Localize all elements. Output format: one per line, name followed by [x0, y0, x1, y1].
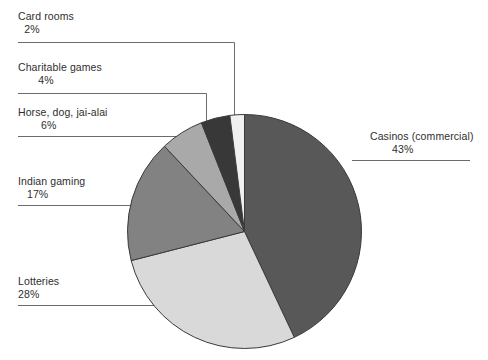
slice-label-charitable-games-pct: 4%	[18, 74, 102, 87]
pie-slices-group	[128, 114, 362, 348]
slice-label-card-rooms-name: Card rooms	[18, 10, 74, 23]
slice-label-lotteries-pct: 28%	[18, 288, 67, 301]
slice-label-horse-dog-jai-alai: Horse, dog, jai-alai 6%	[18, 106, 108, 131]
slice-label-indian-gaming: Indian gaming 17%	[18, 175, 85, 200]
slice-label-charitable-games-name: Charitable games	[18, 61, 102, 74]
pie-chart-figure: Card rooms 2% Charitable games 4% Horse,…	[0, 0, 488, 360]
slice-label-lotteries: Lotteries 28%	[18, 275, 67, 300]
slice-label-casinos-commercial-pct: 43%	[370, 143, 474, 156]
slice-label-indian-gaming-name: Indian gaming	[18, 175, 85, 188]
slice-label-casinos-commercial-name: Casinos (commercial)	[370, 130, 474, 143]
slice-label-lotteries-name: Lotteries	[18, 275, 67, 288]
slice-label-horse-dog-jai-alai-pct: 6%	[18, 119, 108, 132]
slice-label-card-rooms-pct: 2%	[18, 23, 74, 36]
slice-label-indian-gaming-pct: 17%	[18, 188, 85, 201]
slice-label-casinos-commercial: Casinos (commercial) 43%	[370, 130, 474, 155]
slice-label-horse-dog-jai-alai-name: Horse, dog, jai-alai	[18, 106, 108, 119]
slice-label-charitable-games: Charitable games 4%	[18, 61, 102, 86]
slice-label-card-rooms: Card rooms 2%	[18, 10, 74, 35]
